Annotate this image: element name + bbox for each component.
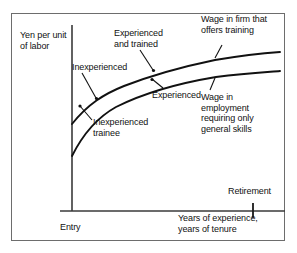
leader-line-experienced (152, 79, 163, 88)
leader-line-experienced-and-trained (140, 50, 153, 70)
annotation-experienced: Experienced (152, 90, 201, 101)
figure-container: Yen per unit of labor Experienced and tr… (0, 0, 297, 253)
annotation-wage-in-firm-offering-training: Wage in firm that offers training (201, 14, 267, 35)
y-axis-label: Yen per unit of labor (20, 30, 67, 51)
annotation-inexperienced: Inexperienced (72, 62, 127, 73)
leader-dot-experienced (150, 78, 153, 81)
leader-dot-inexperienced (95, 97, 98, 100)
annotation-inexperienced-trainee: Inexperienced trainee (93, 117, 148, 138)
leader-dot-experienced-and-trained (152, 69, 155, 72)
x-axis-origin-label-entry: Entry (60, 222, 81, 233)
annotation-wage-general-skills: Wage in employment requiring only genera… (201, 92, 254, 134)
x-axis-label: Years of experience, years of tenure (178, 213, 258, 234)
annotation-experienced-and-trained: Experienced and trained (114, 28, 163, 49)
x-axis-tick-label-retirement: Retirement (228, 186, 271, 197)
leader-line-inexperienced (82, 73, 96, 98)
leader-dot-inexperienced-trainee (78, 104, 81, 107)
leader-line-wage-general-skills (210, 78, 215, 90)
leader-line-wage-in-firm (215, 45, 222, 58)
